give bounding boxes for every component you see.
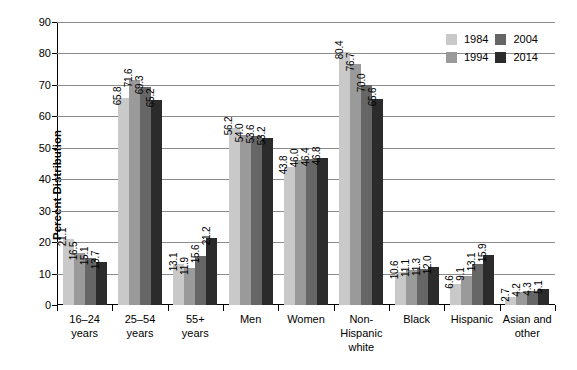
x-axis-tick-mark (334, 305, 335, 311)
legend-label: 2004 (513, 34, 537, 45)
bar-value-label: 53.2 (257, 126, 267, 145)
bar-value-label: 76.7 (346, 52, 356, 71)
bar-item[interactable]: 13.7 (96, 22, 107, 305)
bar-set: 13.111.915.621.2 (173, 22, 217, 305)
chart-legend: 1984200419942014 (446, 34, 538, 63)
bar-value-label: 5.1 (534, 280, 544, 293)
bar-item[interactable]: 71.6 (129, 22, 140, 305)
bar-item[interactable]: 54.0 (240, 22, 251, 305)
bar[interactable] (372, 99, 383, 305)
bar-value-label: 46.4 (301, 148, 311, 167)
bar-value-label: 53.6 (246, 125, 256, 144)
x-axis-tick-mark (278, 305, 279, 311)
y-axis-tick-label: 60 (39, 111, 51, 122)
y-axis-tick-label: 90 (39, 17, 51, 28)
bar-group: 2.74.24.35.1 (500, 22, 555, 305)
x-axis-category-label: 25–54 years (112, 312, 167, 354)
x-axis-tick-mark (389, 305, 390, 311)
bar-item[interactable]: 21.2 (206, 22, 217, 305)
bar[interactable] (350, 64, 361, 305)
y-axis-tick-label: 40 (39, 174, 51, 185)
bar[interactable] (251, 136, 262, 305)
bar-group: 10.611.111.312.0 (389, 22, 444, 305)
x-axis-category-label: Non- Hispanic white (334, 312, 389, 354)
bar-group: 6.69.113.115.9 (444, 22, 499, 305)
bar[interactable] (206, 238, 217, 305)
y-axis-tick-label: 10 (39, 268, 51, 279)
bar-value-label: 4.3 (523, 283, 533, 296)
bar-value-label: 12.0 (423, 256, 433, 275)
bar[interactable] (140, 87, 151, 305)
x-axis-category-label: Hispanic (444, 312, 499, 354)
bar-value-label: 56.2 (224, 117, 234, 136)
x-axis-category-label: 16–24 years (57, 312, 112, 354)
y-axis-tick-label: 30 (39, 205, 51, 216)
bar-item[interactable]: 6.6 (450, 22, 461, 305)
bar-item[interactable]: 69.3 (140, 22, 151, 305)
bar-group: 56.254.053.653.2 (223, 22, 278, 305)
bar[interactable] (317, 158, 328, 305)
bar-value-label: 69.3 (135, 76, 145, 95)
legend-label: 1994 (464, 52, 488, 63)
bar-item[interactable]: 56.2 (229, 22, 240, 305)
x-axis-tick-mark (444, 305, 445, 311)
bar-value-label: 16.5 (69, 242, 79, 261)
bar-item[interactable]: 65.8 (118, 22, 129, 305)
bar-item[interactable]: 21.1 (63, 22, 74, 305)
x-axis-category-label: 55+ years (168, 312, 223, 354)
legend-swatch (446, 34, 457, 45)
x-axis-category-label: Asian and other (500, 312, 555, 354)
bar-item[interactable]: 15.6 (195, 22, 206, 305)
bar[interactable] (262, 138, 273, 305)
bar[interactable] (240, 135, 251, 305)
bar[interactable] (229, 128, 240, 305)
bar-value-label: 21.2 (202, 227, 212, 246)
bar-value-label: 43.8 (279, 156, 289, 175)
bar-set: 80.476.770.065.6 (339, 22, 383, 305)
bar-group: 80.476.770.065.6 (334, 22, 389, 305)
bar-item[interactable]: 13.1 (472, 22, 483, 305)
bar-item[interactable]: 65.2 (151, 22, 162, 305)
x-axis-category-label: Women (278, 312, 333, 354)
bar[interactable] (306, 159, 317, 305)
bar-item[interactable]: 46.8 (317, 22, 328, 305)
bar-item[interactable]: 53.2 (262, 22, 273, 305)
bar-value-label: 80.4 (335, 41, 345, 60)
y-axis-tick-label: 0 (45, 300, 51, 311)
bar[interactable] (361, 85, 372, 305)
x-axis-category-label: Men (223, 312, 278, 354)
bar-item[interactable]: 70.0 (361, 22, 372, 305)
bar-item[interactable]: 53.6 (251, 22, 262, 305)
bar[interactable] (461, 276, 472, 305)
bar-value-label: 6.6 (445, 276, 455, 289)
y-axis-tick-label: 70 (39, 79, 51, 90)
bar[interactable] (483, 255, 494, 305)
bar-value-label: 2.7 (501, 288, 511, 301)
bar-item[interactable]: 5.1 (538, 22, 549, 305)
bar[interactable] (129, 80, 140, 305)
x-axis-category-label: Black (389, 312, 444, 354)
bar-item[interactable]: 2.7 (505, 22, 516, 305)
bar-value-label: 70.0 (357, 74, 367, 93)
bar[interactable] (339, 52, 350, 305)
bar-value-label: 65.2 (146, 89, 156, 108)
legend-swatch (495, 52, 506, 63)
bar[interactable] (284, 167, 295, 305)
bar-item[interactable]: 15.9 (483, 22, 494, 305)
bar[interactable] (118, 98, 129, 305)
x-axis-tick-mark (57, 305, 58, 311)
bar[interactable] (151, 100, 162, 305)
legend-label: 2014 (513, 52, 537, 63)
bar-item[interactable]: 4.3 (527, 22, 538, 305)
bar-value-label: 21.1 (58, 227, 68, 246)
x-axis-tick-mark (112, 305, 113, 311)
plot-area: 0102030405060708090 21.116.515.113.765.8… (57, 22, 555, 305)
bar-item[interactable]: 65.6 (372, 22, 383, 305)
bar[interactable] (295, 160, 306, 305)
bar-set: 6.69.113.115.9 (450, 22, 494, 305)
bar-item[interactable]: 4.2 (516, 22, 527, 305)
bar-set: 65.871.669.365.2 (118, 22, 162, 305)
bar-group: 65.871.669.365.2 (112, 22, 167, 305)
bar-item[interactable]: 76.7 (350, 22, 361, 305)
bar-item[interactable]: 12.0 (428, 22, 439, 305)
